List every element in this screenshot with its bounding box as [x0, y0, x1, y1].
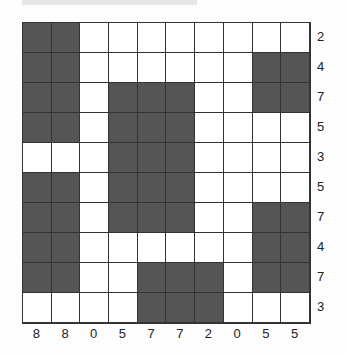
grid-cell[interactable]	[224, 263, 253, 293]
grid-cell[interactable]	[166, 233, 195, 263]
grid-cell[interactable]	[166, 293, 195, 323]
grid-cell[interactable]	[166, 53, 195, 83]
grid-cell[interactable]	[195, 173, 224, 203]
grid-cell[interactable]	[80, 143, 109, 173]
grid-cell[interactable]	[253, 263, 282, 293]
grid-cell[interactable]	[224, 233, 253, 263]
grid-cell[interactable]	[80, 83, 109, 113]
grid-cell[interactable]	[224, 293, 253, 323]
grid-cell[interactable]	[23, 203, 52, 233]
grid-cell[interactable]	[109, 83, 138, 113]
grid-cell[interactable]	[253, 203, 282, 233]
grid-cell[interactable]	[52, 113, 81, 143]
grid-cell[interactable]	[224, 143, 253, 173]
grid-cell[interactable]	[109, 113, 138, 143]
grid-cell[interactable]	[80, 203, 109, 233]
grid-cell[interactable]	[52, 173, 81, 203]
grid-cell[interactable]	[23, 113, 52, 143]
grid-cell[interactable]	[281, 23, 310, 53]
grid-cell[interactable]	[195, 23, 224, 53]
grid-cell[interactable]	[80, 113, 109, 143]
grid-cell[interactable]	[195, 263, 224, 293]
grid-cell[interactable]	[109, 23, 138, 53]
grid-cell[interactable]	[253, 143, 282, 173]
grid-cell[interactable]	[166, 203, 195, 233]
grid-cell[interactable]	[80, 263, 109, 293]
grid-cell[interactable]	[138, 23, 167, 53]
grid-cell[interactable]	[166, 143, 195, 173]
grid-cell[interactable]	[52, 23, 81, 53]
grid-cell[interactable]	[253, 23, 282, 53]
grid-cell[interactable]	[23, 233, 52, 263]
grid-cell[interactable]	[253, 293, 282, 323]
grid-cell[interactable]	[23, 173, 52, 203]
grid-cell[interactable]	[166, 173, 195, 203]
grid-cell[interactable]	[281, 293, 310, 323]
grid-cell[interactable]	[253, 53, 282, 83]
grid-cell[interactable]	[138, 173, 167, 203]
grid-cell[interactable]	[195, 203, 224, 233]
grid-cell[interactable]	[281, 53, 310, 83]
grid-cell[interactable]	[23, 263, 52, 293]
grid-cell[interactable]	[281, 233, 310, 263]
grid-cell[interactable]	[166, 113, 195, 143]
grid-cell[interactable]	[138, 263, 167, 293]
grid-cell[interactable]	[109, 203, 138, 233]
grid-cell[interactable]	[138, 143, 167, 173]
grid-cell[interactable]	[253, 113, 282, 143]
grid-cell[interactable]	[166, 23, 195, 53]
grid-cell[interactable]	[195, 113, 224, 143]
grid-cell[interactable]	[23, 293, 52, 323]
grid-cell[interactable]	[52, 83, 81, 113]
grid-cell[interactable]	[281, 203, 310, 233]
grid-cell[interactable]	[253, 173, 282, 203]
grid-cell[interactable]	[195, 83, 224, 113]
grid-cell[interactable]	[23, 53, 52, 83]
grid-cell[interactable]	[109, 53, 138, 83]
grid-cell[interactable]	[80, 233, 109, 263]
grid-cell[interactable]	[80, 23, 109, 53]
grid-cell[interactable]	[23, 83, 52, 113]
grid-cell[interactable]	[109, 233, 138, 263]
grid-cell[interactable]	[281, 173, 310, 203]
grid-cell[interactable]	[52, 143, 81, 173]
grid-cell[interactable]	[138, 203, 167, 233]
grid-cell[interactable]	[52, 263, 81, 293]
grid-cell[interactable]	[224, 23, 253, 53]
grid-cell[interactable]	[109, 293, 138, 323]
grid-cell[interactable]	[52, 203, 81, 233]
grid-cell[interactable]	[109, 143, 138, 173]
grid-cell[interactable]	[138, 83, 167, 113]
grid-cell[interactable]	[138, 233, 167, 263]
grid-cell[interactable]	[138, 113, 167, 143]
grid-cell[interactable]	[52, 53, 81, 83]
grid-cell[interactable]	[80, 293, 109, 323]
grid-cell[interactable]	[166, 83, 195, 113]
grid-cell[interactable]	[195, 233, 224, 263]
grid-cell[interactable]	[253, 83, 282, 113]
grid-cell[interactable]	[281, 263, 310, 293]
grid-cell[interactable]	[52, 293, 81, 323]
grid-cell[interactable]	[80, 53, 109, 83]
grid-cell[interactable]	[195, 143, 224, 173]
grid-cell[interactable]	[109, 263, 138, 293]
grid-cell[interactable]	[224, 203, 253, 233]
grid-cell[interactable]	[195, 293, 224, 323]
grid-cell[interactable]	[253, 233, 282, 263]
grid-cell[interactable]	[224, 113, 253, 143]
grid-cell[interactable]	[80, 173, 109, 203]
grid-cell[interactable]	[109, 173, 138, 203]
grid-cell[interactable]	[52, 233, 81, 263]
grid-cell[interactable]	[166, 263, 195, 293]
grid-cell[interactable]	[23, 143, 52, 173]
grid-cell[interactable]	[138, 53, 167, 83]
grid-cell[interactable]	[138, 293, 167, 323]
grid-cell[interactable]	[195, 53, 224, 83]
grid-cell[interactable]	[224, 173, 253, 203]
grid-cell[interactable]	[23, 23, 52, 53]
grid-cell[interactable]	[281, 113, 310, 143]
grid-cell[interactable]	[281, 83, 310, 113]
grid-cell[interactable]	[281, 143, 310, 173]
grid-cell[interactable]	[224, 83, 253, 113]
grid-cell[interactable]	[224, 53, 253, 83]
